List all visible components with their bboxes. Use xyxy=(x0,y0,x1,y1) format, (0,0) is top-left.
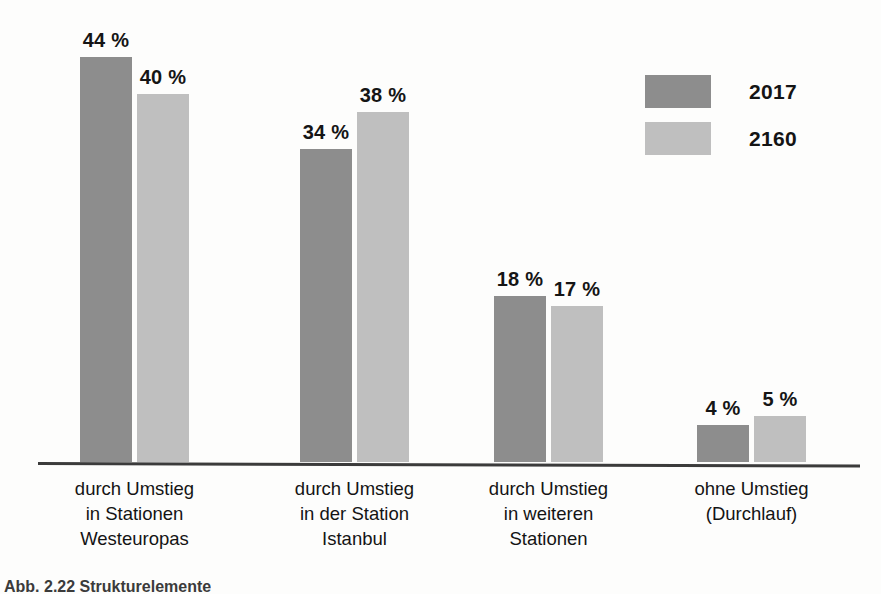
category-label-line: (Durchlauf) xyxy=(642,501,862,526)
category-label-line: Westeuropas xyxy=(25,526,245,551)
bar-2160-3 xyxy=(551,306,603,462)
bar-2017-4 xyxy=(697,425,749,462)
category-label-4: ohne Umstieg(Durchlauf) xyxy=(642,476,862,526)
bar-value-label-2160-2: 38 % xyxy=(343,84,423,107)
bar-2017-2 xyxy=(300,149,352,462)
figure-caption: Abb. 2.22 Strukturelemente xyxy=(4,578,211,594)
legend-label-2017: 2017 xyxy=(749,80,797,104)
category-label-line: in Stationen xyxy=(25,501,245,526)
chart-legend: 20172160 xyxy=(645,68,797,162)
category-label-line: Istanbul xyxy=(245,526,465,551)
bar-2017-3 xyxy=(494,296,546,462)
category-label-2: durch Umstiegin der StationIstanbul xyxy=(245,476,465,551)
bar-chart: 44 %34 %18 %4 %40 %38 %17 %5 % durch Ums… xyxy=(0,0,881,594)
bar-value-label-2017-1: 44 % xyxy=(66,29,146,52)
bar-value-label-2160-4: 5 % xyxy=(740,388,820,411)
category-label-line: ohne Umstieg xyxy=(642,476,862,501)
category-label-1: durch Umstiegin StationenWesteuropas xyxy=(25,476,245,551)
category-label-line: durch Umstieg xyxy=(25,476,245,501)
bar-value-label-2017-2: 34 % xyxy=(286,121,366,144)
category-label-line: durch Umstieg xyxy=(245,476,465,501)
bar-2160-4 xyxy=(754,416,806,462)
legend-swatch-2017 xyxy=(645,75,711,108)
legend-item-2160: 2160 xyxy=(645,115,797,162)
bar-value-label-2160-3: 17 % xyxy=(537,278,617,301)
category-label-line: in weiteren xyxy=(439,501,659,526)
bar-2017-1 xyxy=(80,57,132,462)
bar-2160-2 xyxy=(357,112,409,462)
legend-item-2017: 2017 xyxy=(645,68,797,115)
legend-label-2160: 2160 xyxy=(749,127,797,151)
legend-swatch-2160 xyxy=(645,122,711,155)
category-label-line: Stationen xyxy=(439,526,659,551)
bar-2160-1 xyxy=(137,94,189,462)
category-label-3: durch Umstiegin weiterenStationen xyxy=(439,476,659,551)
bar-value-label-2160-1: 40 % xyxy=(123,66,203,89)
category-label-line: in der Station xyxy=(245,501,465,526)
category-label-line: durch Umstieg xyxy=(439,476,659,501)
